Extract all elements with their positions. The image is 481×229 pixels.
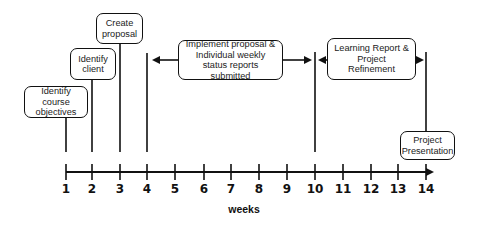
tick-label-12: 12	[363, 182, 380, 196]
phase-learning-report: Learning Report & Project Refinement	[327, 38, 416, 80]
tick-label-3: 3	[116, 182, 124, 196]
tick-label-11: 11	[335, 182, 352, 196]
milestone-project-presentation: Project Presentation	[400, 131, 455, 160]
milestone-identify-client: Identify client	[70, 48, 116, 80]
tick-label-5: 5	[171, 182, 179, 196]
tick-label-6: 6	[200, 182, 208, 196]
tick-label-2: 2	[88, 182, 96, 196]
tick-label-7: 7	[227, 182, 235, 196]
phase-implement-proposal: Implement proposal & Individual weekly s…	[178, 40, 283, 80]
tick-label-4: 4	[143, 182, 151, 196]
tick-label-10: 10	[307, 182, 324, 196]
tick-label-14: 14	[418, 182, 435, 196]
axis-title-weeks: weeks	[228, 203, 260, 215]
tick-label-9: 9	[283, 182, 291, 196]
tick-label-1: 1	[62, 182, 70, 196]
milestone-create-proposal: Create proposal	[96, 13, 143, 44]
milestone-identify-course-objectives: Identify course objectives	[24, 86, 88, 118]
tick-label-8: 8	[255, 182, 263, 196]
tick-label-13: 13	[390, 182, 407, 196]
